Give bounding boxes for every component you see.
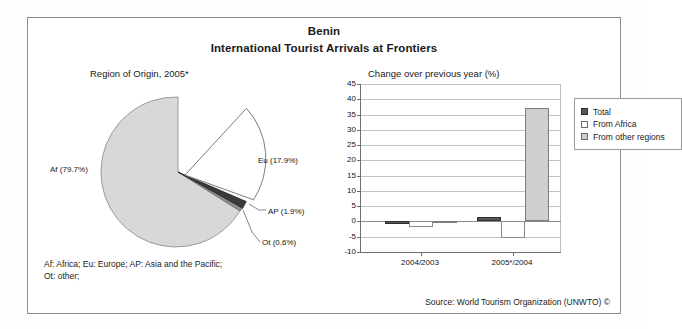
pie-chart-caption: Region of Origin, 2005* (90, 68, 189, 79)
legend-item-from-other-regions: From other regions (581, 132, 676, 142)
ytick-mark-0 (357, 221, 361, 222)
ytick-label-40: 40 (326, 95, 356, 103)
legend-label-from-other-regions: From other regions (593, 132, 665, 142)
ytick-label-20: 20 (326, 156, 356, 164)
bar-chart: 45 40 35 30 25 20 15 10 5 0 -5 -10 2004/… (326, 76, 616, 281)
pie-label-ot: Ot (0.6%) (262, 238, 296, 247)
bar-2005-total (477, 217, 501, 221)
bar-plot-area (360, 84, 561, 253)
bar-2005-from-africa (501, 221, 525, 238)
footnotes: Af: Africa; Eu: Europe; AP: Asia and the… (44, 258, 222, 282)
pie-chart: Af (79.7%) Eu (17.9%) AP (1.9%) Ot (0.6%… (40, 80, 340, 265)
ytick-mark-10 (357, 191, 361, 192)
ytick-mark-20 (357, 160, 361, 161)
ytick-label-45: 45 (326, 80, 356, 88)
xtick-mark-2 (513, 252, 514, 256)
ytick-mark-neg5 (357, 237, 361, 238)
ytick-label-25: 25 (326, 141, 356, 149)
xtick-label-2005-2004: 2005*/2004 (477, 258, 547, 267)
gridline-45 (361, 84, 561, 85)
footnote-line-2: Ot: other; (44, 270, 222, 282)
pie-label-ap: AP (1.9%) (268, 207, 304, 216)
ytick-mark-35 (357, 115, 361, 116)
legend-item-from-africa: From Africa (581, 119, 676, 129)
ytick-label-35: 35 (326, 111, 356, 119)
legend-swatch-from-other-regions-icon (581, 133, 588, 140)
xtick-mark-1 (421, 252, 422, 256)
plot-right-edge (560, 84, 561, 252)
legend-label-from-africa: From Africa (593, 119, 636, 129)
ytick-label-10: 10 (326, 187, 356, 195)
legend-label-total: Total (593, 107, 611, 117)
bar-2005-from-other-regions (525, 108, 549, 221)
bar-2004-total (385, 221, 409, 224)
ytick-label-neg5: -5 (326, 233, 356, 241)
ytick-mark-25 (357, 145, 361, 146)
ytick-mark-15 (357, 176, 361, 177)
xtick-label-2004-2003: 2004/2003 (385, 258, 455, 267)
bar-2004-from-other-regions (433, 221, 457, 223)
legend-item-total: Total (581, 107, 676, 117)
footnote-line-1: Af: Africa; Eu: Europe; AP: Asia and the… (44, 258, 222, 270)
legend-swatch-total-icon (581, 108, 588, 115)
ytick-mark-40 (357, 99, 361, 100)
pie-label-af: Af (79.7%) (50, 165, 88, 174)
bar-2004-from-africa (409, 221, 433, 227)
figure-title: Benin (28, 25, 620, 37)
ytick-mark-45 (357, 84, 361, 85)
legend-swatch-from-africa-icon (581, 121, 588, 128)
pie-label-eu: Eu (17.9%) (258, 156, 298, 165)
gridline-40 (361, 99, 561, 100)
ytick-label-neg10: -10 (326, 248, 356, 256)
gridline-neg5 (361, 237, 561, 238)
ytick-mark-5 (357, 206, 361, 207)
ytick-label-5: 5 (326, 202, 356, 210)
ytick-label-0: 0 (326, 217, 356, 225)
ytick-label-30: 30 (326, 126, 356, 134)
figure-frame: Benin International Tourist Arrivals at … (27, 17, 621, 314)
ytick-mark-neg10 (357, 252, 361, 253)
ytick-label-15: 15 (326, 172, 356, 180)
ytick-mark-30 (357, 130, 361, 131)
source-note: Source: World Tourism Organization (UNWT… (425, 297, 610, 307)
bar-chart-legend: Total From Africa From other regions (574, 98, 682, 150)
figure-subtitle: International Tourist Arrivals at Fronti… (28, 42, 620, 54)
